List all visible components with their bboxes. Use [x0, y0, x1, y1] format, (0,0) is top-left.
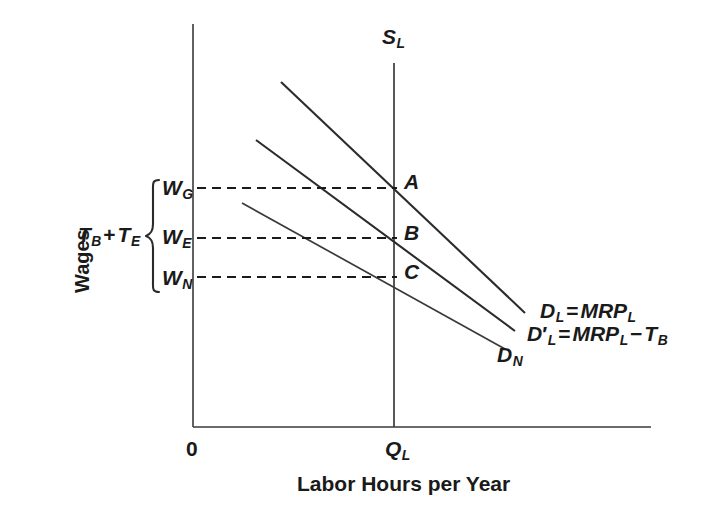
point-c-label: C — [404, 261, 419, 282]
dlp-t: T — [644, 322, 657, 345]
dn-sub: N — [513, 353, 523, 369]
x-axis-title: Labor Hours per Year — [297, 473, 510, 494]
quantity-tick-label: QL — [385, 438, 410, 463]
origin-label: 0 — [186, 438, 198, 459]
demand-dl-prime-equation-label: D′L=MRPL−TB — [527, 323, 668, 348]
tax-b-sub: B — [91, 233, 101, 249]
dlp-base: D — [527, 322, 542, 345]
tax-plus-op: + — [103, 223, 115, 246]
supply-base: S — [382, 25, 396, 48]
point-a-label: A — [404, 171, 419, 192]
demand-dn-label: DN — [497, 344, 523, 369]
wage-net-base: W — [162, 266, 182, 289]
labor-market-diagram: Wages TB+TE WG WE WN SL A B C DL=MRPL D′… — [0, 0, 722, 514]
dl-equals-op: = — [566, 299, 578, 322]
wage-equilibrium-base: W — [162, 225, 182, 248]
quantity-sub: L — [402, 447, 410, 463]
demand-curve-dl — [281, 82, 525, 313]
wage-equilibrium-label: WE — [162, 226, 192, 251]
wage-gross-sub: G — [182, 186, 193, 202]
dl-base: D — [540, 299, 555, 322]
dn-base: D — [497, 343, 512, 366]
dlp-prime: ′ — [542, 322, 547, 345]
quantity-base: Q — [385, 437, 401, 460]
wage-net-label: WN — [162, 267, 192, 292]
demand-curve-dl-prime — [256, 140, 515, 331]
tax-b-base: T — [78, 223, 91, 246]
dl-mrp: MRP — [580, 299, 627, 322]
wage-gross-label: WG — [162, 177, 193, 202]
wage-equilibrium-sub: E — [182, 235, 191, 251]
tax-bracket-label: TB+TE — [78, 224, 140, 249]
supply-sub: L — [397, 35, 405, 51]
tax-brace — [146, 180, 159, 292]
dlp-mrp: MRP — [572, 322, 619, 345]
point-b-label: B — [404, 222, 419, 243]
tax-e-sub: E — [131, 233, 140, 249]
dlp-mrp-sub: L — [620, 332, 628, 348]
dlp-t-sub: B — [658, 332, 668, 348]
wage-net-sub: N — [182, 276, 192, 292]
dlp-minus-op: − — [630, 322, 642, 345]
tax-e-base: T — [118, 223, 131, 246]
dlp-equals-op: = — [558, 322, 570, 345]
dlp-sub: L — [548, 332, 556, 348]
diagram-canvas — [0, 0, 722, 514]
supply-curve-label: SL — [382, 26, 405, 51]
wage-gross-base: W — [162, 176, 182, 199]
demand-curve-dn — [242, 203, 505, 349]
